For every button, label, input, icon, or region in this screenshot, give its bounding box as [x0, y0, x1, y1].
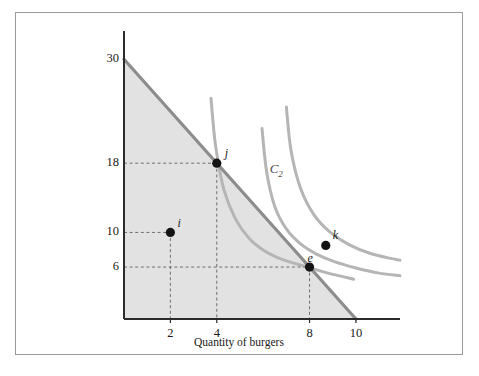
- chart-canvas: [0, 0, 479, 376]
- y-tick-label-6: 6: [97, 259, 119, 274]
- y-tick-label-10: 10: [97, 224, 119, 239]
- indifference-curve-3: [286, 107, 400, 260]
- curve-label-main: C: [270, 161, 279, 176]
- x-tick-label-4: 4: [206, 326, 228, 341]
- curve-label-subscript: 2: [278, 169, 283, 179]
- data-point-label-i: i: [177, 216, 180, 231]
- figure-container: Quantity of tacos Quantity of burgers ij…: [0, 0, 479, 376]
- data-point-i[interactable]: [166, 228, 175, 237]
- data-point-label-j: j: [225, 146, 228, 161]
- data-point-label-e: e: [308, 251, 313, 266]
- x-tick-label-10: 10: [345, 326, 367, 341]
- curve-label-c2: C2: [270, 161, 283, 179]
- data-point-label-k: k: [333, 228, 338, 243]
- x-tick-label-2: 2: [159, 326, 181, 341]
- y-tick-label-18: 18: [97, 155, 119, 170]
- data-point-j[interactable]: [212, 159, 221, 168]
- x-tick-label-8: 8: [299, 326, 321, 341]
- y-tick-label-30: 30: [97, 51, 119, 66]
- data-point-k[interactable]: [321, 241, 330, 250]
